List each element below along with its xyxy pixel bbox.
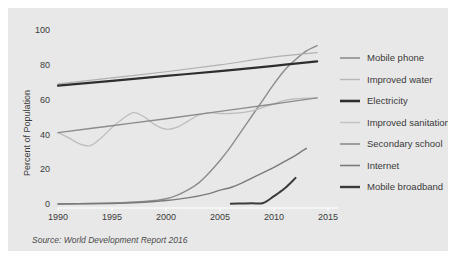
legend-item-label: Secondary school (367, 138, 443, 149)
y-tick-label: 60 (40, 95, 50, 105)
legend-item-label: Mobile broadband (367, 181, 443, 192)
data-series-group (58, 46, 317, 204)
x-axis-tick-labels: 199019952000200520102015 (48, 212, 338, 222)
y-tick-label: 40 (40, 130, 50, 140)
chart-legend: Mobile phoneImproved waterElectricityImp… (340, 52, 448, 192)
y-tick-label: 100 (35, 25, 50, 35)
x-tick-label: 2000 (156, 212, 176, 222)
y-axis-tick-labels: 020406080100 (35, 25, 50, 209)
x-tick-label: 1995 (102, 212, 122, 222)
legend-item-label: Improved water (367, 74, 432, 85)
source-note: Source: World Development Report 2016 (32, 235, 188, 245)
x-tick-label: 1990 (48, 212, 68, 222)
line-chart: Percent of Population 020406080100 19901… (8, 8, 448, 251)
series-line (58, 148, 306, 204)
x-tick-label: 2015 (318, 212, 338, 222)
y-tick-label: 80 (40, 60, 50, 70)
chart-figure-panel: Percent of Population 020406080100 19901… (8, 8, 448, 251)
series-line (58, 98, 317, 133)
y-tick-label: 0 (45, 199, 50, 209)
y-tick-label: 20 (40, 164, 50, 174)
legend-item-label: Internet (367, 160, 400, 171)
series-line (58, 98, 317, 146)
legend-item-label: Improved sanitation (367, 117, 448, 128)
axis-lines (58, 208, 338, 211)
series-line (58, 61, 317, 85)
series-line (231, 178, 296, 204)
y-axis-title: Percent of Population (22, 90, 32, 176)
x-tick-label: 2005 (210, 212, 230, 222)
x-tick-label: 2010 (264, 212, 284, 222)
legend-item-label: Mobile phone (367, 52, 424, 63)
legend-item-label: Electricity (367, 95, 408, 106)
svg-text:Percent of Population: Percent of Population (22, 90, 32, 176)
